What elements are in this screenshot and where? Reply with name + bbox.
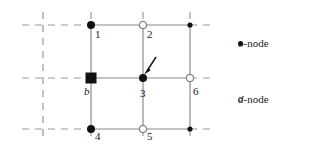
node-1[interactable] [87,21,95,29]
figure-canvas: 1 2 b 3 6 4 5 o-node d-node [0,0,309,150]
legend-label-o-node: o-node [238,38,269,49]
node-2[interactable] [139,21,146,28]
node-label-4: 4 [95,131,101,142]
legend-text-o: -node [244,37,269,49]
node-4[interactable] [87,125,95,133]
legend-text-d: -node [244,93,269,105]
legend-entry-o-node: o-node [238,41,243,46]
pointer-arrow-to-node-3 [144,57,156,75]
nodes-group [86,21,194,133]
legend-label-d-node: d-node [238,94,269,105]
node-5[interactable] [139,125,146,132]
node-3[interactable] [139,74,147,82]
node-b[interactable] [86,73,97,84]
node-label-b: b [84,86,90,97]
node-top-right[interactable] [187,22,192,27]
node-label-5: 5 [147,131,153,142]
legend-entry-d-node: d-node [238,97,243,102]
node-label-3: 3 [140,88,146,99]
node-6[interactable] [186,74,193,81]
node-label-2: 2 [147,29,153,40]
node-bottom-right[interactable] [187,126,192,131]
node-grid-diagram [0,0,309,150]
node-label-6: 6 [193,86,199,97]
node-label-1: 1 [95,29,101,40]
